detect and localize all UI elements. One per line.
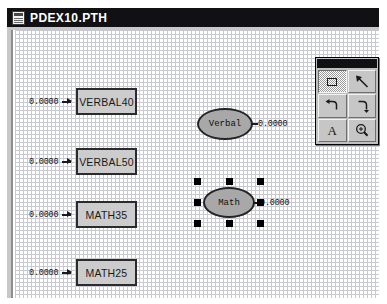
curve-left-icon [324,99,340,113]
observed-variable-box[interactable]: VERBAL50 [76,148,137,175]
error-value-label[interactable]: 0.0000 [29,210,58,220]
observed-variable-box[interactable]: MATH25 [76,259,137,286]
latent-variable-ellipse[interactable]: Verbal [197,108,253,140]
selection-handle[interactable] [194,220,201,227]
observed-variable-box[interactable]: VERBAL40 [76,88,137,115]
error-path-arrow[interactable] [62,272,71,274]
magnifier-plus-icon [354,123,370,138]
selection-handle[interactable] [257,178,264,185]
selection-handle[interactable] [194,199,201,206]
error-path-arrow[interactable] [62,161,71,163]
application-window: PDEX10.PTH VERBAL400.0000VERBAL500.0000M… [7,8,379,298]
selection-handle[interactable] [226,178,233,185]
arrow-diagonal-icon [354,74,370,89]
select-tool[interactable] [318,70,347,93]
rectangle-select-icon [324,75,340,89]
selection-handle[interactable] [257,220,264,227]
selection-handle[interactable] [257,199,264,206]
text-tool[interactable]: A [318,119,347,142]
latent-value-connector [251,123,258,125]
latent-value-label[interactable]: 0.0000 [260,198,289,208]
curve-left-tool[interactable] [318,94,347,117]
document-icon [12,11,25,25]
title-bar[interactable]: PDEX10.PTH [7,8,379,27]
observed-variable-box[interactable]: MATH35 [76,201,137,228]
error-value-label[interactable]: 0.0000 [29,157,58,167]
window-title: PDEX10.PTH [30,11,107,25]
curve-right-icon [354,99,370,113]
zoom-tool[interactable] [348,119,377,142]
latent-value-label[interactable]: 0.0000 [258,119,287,129]
arrow-tool[interactable] [348,70,377,93]
error-value-label[interactable]: 0.0000 [29,268,58,278]
error-path-arrow[interactable] [62,214,71,216]
selection-handle[interactable] [226,220,233,227]
palette-button-grid: A [318,70,376,142]
error-value-label[interactable]: 0.0000 [29,97,58,107]
palette-title-bar[interactable] [317,59,377,68]
tool-palette[interactable]: A [315,57,379,145]
text-A-icon: A [328,124,337,137]
latent-variable-ellipse[interactable]: Math [203,187,255,218]
curve-right-tool[interactable] [348,94,377,117]
selection-handle[interactable] [194,178,201,185]
error-path-arrow[interactable] [62,101,71,103]
